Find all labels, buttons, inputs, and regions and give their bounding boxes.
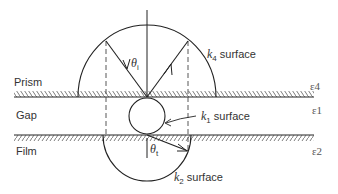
k1-surface-label: k1 surface [201, 110, 250, 125]
prism-label: Prism [14, 77, 42, 88]
prism-gap-interface [14, 91, 314, 97]
theta-i-sub: i [137, 63, 139, 72]
wavevector-surface-diagram [0, 0, 338, 194]
k2-surface-label: k2 surface [174, 171, 223, 186]
k1-surface-curve [129, 98, 165, 134]
theta-t-label: θt [150, 143, 158, 158]
gap-film-interface [14, 135, 314, 141]
theta-t-sub: t [156, 149, 158, 158]
epsilon-2-label: ε2 [312, 146, 322, 157]
gap-label: Gap [16, 110, 37, 121]
k1-text: surface [211, 110, 250, 122]
epsilon-1-label: ε1 [312, 105, 322, 116]
k4-text: surface [217, 48, 256, 60]
epsilon-4-label: ε4 [310, 81, 320, 92]
film-label: Film [16, 146, 37, 157]
incident-arrowhead [123, 59, 130, 69]
reflected-arrowhead [164, 64, 172, 75]
theta-i-label: θi [131, 57, 139, 72]
k2-text: surface [184, 171, 223, 183]
k4-surface-label: k4 surface [207, 48, 256, 63]
